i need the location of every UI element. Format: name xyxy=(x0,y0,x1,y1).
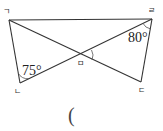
label-digeut: ㄷ xyxy=(138,86,145,95)
label-mieum: ㅁ xyxy=(77,59,84,68)
label-nieun: ㄴ xyxy=(14,87,21,96)
segment-giyeok-rieul xyxy=(9,19,152,20)
angle-label-75: 75° xyxy=(22,63,42,78)
answer-open-paren: ( xyxy=(68,104,75,127)
angle-label-80: 80° xyxy=(128,30,148,45)
angle-arc-rieul xyxy=(143,23,150,28)
geometry-diagram: ㄱ ㄹ ㄴ ㄷ ㅁ 75° 80° ( xyxy=(0,0,163,131)
label-rieul: ㄹ xyxy=(148,6,155,15)
label-giyeok: ㄱ xyxy=(3,7,10,16)
